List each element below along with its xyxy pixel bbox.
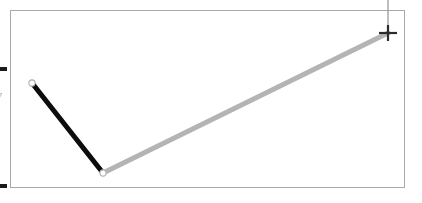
y-axis-tick-upper — [0, 67, 7, 71]
line-segment-ascending[interactable] — [32, 83, 103, 173]
plot-drawing-surface — [0, 0, 422, 203]
plot-canvas: y — [0, 0, 422, 203]
vertex-marker-middle[interactable] — [100, 170, 106, 176]
y-axis-label: y — [0, 88, 2, 102]
line-segment-descending[interactable] — [103, 33, 388, 173]
vertex-marker-start[interactable] — [29, 80, 35, 86]
y-axis-tick-lower — [0, 184, 7, 188]
